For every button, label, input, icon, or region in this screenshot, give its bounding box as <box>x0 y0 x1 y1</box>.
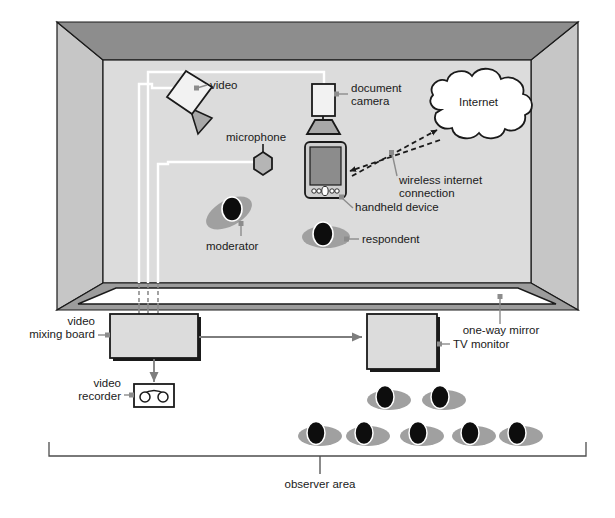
respondent-label: respondent <box>362 233 420 245</box>
moderator-anchor-dot <box>239 221 244 226</box>
diagram-canvas: video document camera Internet <box>0 0 615 518</box>
video-recorder[interactable] <box>124 384 174 407</box>
document-camera-head-icon <box>312 84 335 116</box>
observer-back-row <box>367 386 466 411</box>
handheld-device-button-4-icon <box>335 189 339 193</box>
one-way-mirror-label: one-way mirror <box>463 324 540 336</box>
tv-monitor-label: TV monitor <box>453 338 509 350</box>
observer[interactable] <box>422 386 466 411</box>
observer[interactable] <box>367 386 411 411</box>
tv-monitor-anchor-dot <box>437 342 442 347</box>
video-mixing-board-anchor-dot <box>105 333 110 338</box>
document-camera-anchor-dot <box>334 92 339 97</box>
moderator-head-icon <box>222 197 242 221</box>
internet-cloud-label: Internet <box>459 96 499 108</box>
observer-head-icon <box>355 422 373 445</box>
observer-area-label: observer area <box>285 478 357 490</box>
wireless-label-line1: wireless internet <box>398 174 483 186</box>
respondent-anchor-dot <box>344 237 349 242</box>
room-ceiling <box>57 22 578 60</box>
handheld-device-label: handheld device <box>355 201 439 213</box>
wireless-anchor-dot <box>389 150 394 155</box>
room-wall-right <box>531 22 578 310</box>
video-mixing-board-box-icon <box>110 314 198 358</box>
video-recorder-reel-left-icon <box>140 392 150 402</box>
observer-head-icon <box>431 386 449 409</box>
handheld-device-button-3-icon <box>330 189 334 193</box>
video-mixing-board[interactable] <box>98 314 201 361</box>
observer-area-bracket <box>49 442 586 474</box>
observer[interactable] <box>400 422 444 447</box>
video-recorder-reel-right-icon <box>158 392 168 402</box>
respondent-head-icon <box>313 222 333 246</box>
wireless-label-line2: connection <box>399 187 455 199</box>
observer[interactable] <box>346 422 390 447</box>
observer-head-icon <box>508 422 526 445</box>
handheld-device-button-center-icon <box>322 186 328 195</box>
handheld-device-anchor-dot <box>339 195 344 200</box>
video-mixing-board-label-line1: video <box>68 315 96 327</box>
one-way-mirror-glass <box>78 288 556 304</box>
microphone-label: microphone <box>226 131 286 143</box>
tv-monitor-box-icon <box>367 314 437 369</box>
video-camera-anchor-dot <box>194 86 199 91</box>
observer-head-icon <box>409 422 427 445</box>
observer-front-row <box>298 422 543 447</box>
observer-head-icon <box>307 422 325 445</box>
document-camera-label-line1: document <box>351 82 402 94</box>
handheld-device-button-1-icon <box>312 189 316 193</box>
moderator-label: moderator <box>206 240 259 252</box>
one-way-mirror-anchor-dot <box>498 294 503 299</box>
observer[interactable] <box>499 422 543 447</box>
handheld-device-button-2-icon <box>317 189 321 193</box>
document-camera-label-line2: camera <box>351 95 390 107</box>
video-recorder-label-line1: video <box>94 377 122 389</box>
video-camera-label: video <box>210 79 238 91</box>
video-mixing-board-label-line2: mixing board <box>29 328 95 340</box>
observer-head-icon <box>461 422 479 445</box>
observer-head-icon <box>376 386 394 409</box>
room-wall-left <box>57 22 103 310</box>
observer[interactable] <box>452 422 496 447</box>
video-recorder-anchor-dot <box>129 393 134 398</box>
microphone-head-icon <box>254 152 272 175</box>
video-recorder-label-line2: recorder <box>78 390 121 402</box>
tv-monitor[interactable] <box>367 314 450 372</box>
handheld-device-screen-icon <box>310 147 341 185</box>
observer[interactable] <box>298 422 342 447</box>
